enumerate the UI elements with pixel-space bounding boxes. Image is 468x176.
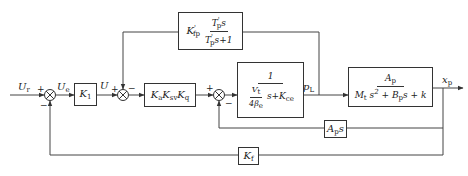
output-signal-label: xp — [442, 75, 452, 87]
plant-block: Ap Mt s2 + Bps + k — [348, 67, 433, 107]
load-pressure-label: pL — [303, 82, 314, 94]
hydraulic-block: 1 Vt 4βe s+Kce — [237, 62, 304, 118]
hydraulic-fraction: 1 Vt 4βe s+Kce — [245, 71, 296, 110]
error-signal-label: Ue — [57, 82, 70, 94]
sum1 — [45, 90, 56, 101]
feedforward-gain: K'fp — [187, 24, 201, 38]
kf-label: Kf — [243, 150, 253, 163]
amplifier-valve-label: KaKsvKq — [151, 89, 190, 102]
sum1-minus-sign: − — [40, 101, 48, 110]
k1-label: K1 — [80, 88, 92, 101]
sum2 — [118, 90, 129, 101]
k1-block: K1 — [74, 83, 97, 106]
input-signal-label: Ur — [18, 82, 30, 94]
amplifier-valve-block: KaKsvKq — [144, 83, 196, 107]
plant-fraction: Ap Mt s2 + Bps + k — [353, 73, 429, 102]
control-signal-label: U — [100, 81, 108, 91]
sum3-plus-sign: + — [206, 84, 214, 93]
feedforward-block: K'fp T'ps T'ps+1 — [178, 12, 243, 50]
sum3 — [214, 90, 225, 101]
aps-block: Aps — [324, 120, 347, 138]
kf-block: Kf — [238, 147, 259, 165]
sum2-plus-sign: + — [111, 85, 119, 94]
sum1-plus-sign: + — [37, 85, 45, 94]
aps-label: Aps — [327, 123, 344, 136]
feedforward-fraction: T'ps T'ps+1 — [203, 16, 234, 47]
sum3-minus-sign: − — [225, 99, 233, 108]
sum2-minus-sign: − — [128, 84, 136, 93]
